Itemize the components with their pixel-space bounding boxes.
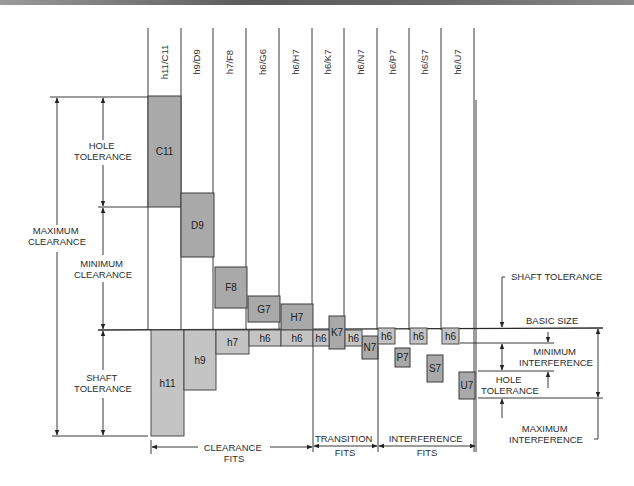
column-header: h6/S7 [419, 50, 430, 75]
maximum-interference-label: MAXIMUM INTERFERENCE [509, 423, 583, 445]
hole-tolerance-label-right: HOLE TOLERANCE [481, 374, 539, 396]
clearance-fits-label: CLEARANCE FITS [204, 442, 265, 464]
column-header: h6/H7 [290, 49, 301, 74]
column-headers: h11/C11h9/D9h7/F8h6/G6h6/H7h6/K7h6/N7h6/… [159, 45, 463, 80]
hole-zone-label: F8 [225, 282, 237, 293]
hole-zone-label: P7 [396, 352, 409, 363]
shaft-zone: h6 [313, 330, 329, 346]
basic-size-label: BASIC SIZE [526, 315, 578, 326]
shaft-zone-label: h6 [291, 333, 303, 344]
hole-zone-label: D9 [191, 220, 204, 231]
hole-zone: S7 [427, 355, 443, 382]
maximum-clearance-label: MAXIMUM CLEARANCE [28, 225, 86, 247]
hole-zone: P7 [395, 348, 410, 367]
shaft-zone: h6 [249, 330, 281, 346]
fits-diagram: h11/C11h9/D9h7/F8h6/G6h6/H7h6/K7h6/N7h6/… [0, 0, 634, 486]
shaft-zone-label: h6 [259, 333, 271, 344]
hole-zone: H7 [281, 304, 313, 330]
hole-zone: N7 [362, 336, 378, 359]
column-header: h6/P7 [387, 50, 398, 75]
fit-group-annotations: CLEARANCE FITS TRANSITION FITS INTERFERE… [151, 100, 476, 464]
hole-zone: G7 [248, 296, 280, 322]
shaft-zone-label: h6 [381, 331, 393, 342]
hole-zone-label: G7 [257, 304, 271, 315]
column-header: h6/U7 [452, 49, 463, 74]
left-dimension-annotations: HOLE TOLERANCE MAXIMUM CLEARANCE MINIMUM… [28, 97, 148, 436]
column-header: h9/D9 [191, 49, 202, 74]
hole-zone-label: C11 [156, 146, 174, 157]
hole-zone-label: S7 [429, 363, 442, 374]
hole-zone-label: U7 [461, 380, 474, 391]
hole-zone: K7 [329, 316, 345, 349]
column-header: h6/G6 [257, 49, 268, 75]
shaft-zone: h6 [378, 328, 395, 344]
hole-zone: U7 [459, 372, 475, 399]
shaft-tolerance-label-left: SHAFT TOLERANCE [74, 372, 132, 394]
minimum-clearance-label: MINIMUM CLEARANCE [74, 258, 132, 280]
shaft-zone-label: h6 [445, 331, 457, 342]
shaft-zone-label: h6 [315, 333, 327, 344]
shaft-zone-label: h11 [160, 378, 176, 389]
shaft-zone-label: h7 [227, 337, 239, 348]
shaft-zone: h7 [216, 330, 249, 354]
shaft-zone: h6 [345, 330, 362, 346]
column-header: h6/K7 [322, 50, 333, 75]
hole-zone-label: K7 [331, 327, 344, 338]
shaft-zone: h6 [442, 328, 459, 344]
hole-zone: C11 [148, 96, 181, 207]
shaft-tolerance-label-right: SHAFT TOLERANCE [511, 271, 602, 282]
shaft-zone: h6 [410, 328, 427, 344]
hole-zone: F8 [215, 267, 247, 308]
hole-zone-label: H7 [291, 312, 304, 323]
shaft-zone-label: h6 [348, 333, 360, 344]
shaft-zone-label: h6 [413, 331, 425, 342]
shaft-tolerance-zones: h11h9h7h6h6h6h6h6h6h6 [151, 328, 459, 436]
column-header: h11/C11 [159, 45, 170, 80]
shaft-zone: h11 [151, 330, 184, 436]
column-header: h6/N7 [355, 49, 366, 74]
shaft-zone: h6 [281, 330, 313, 346]
right-dimension-annotations: SHAFT TOLERANCE BASIC SIZE MINIMUM INTER… [460, 271, 603, 445]
hole-zone: D9 [181, 193, 214, 257]
minimum-interference-label: MINIMUM INTERFERENCE [519, 346, 593, 368]
hole-tolerance-label-left: HOLE TOLERANCE [74, 140, 132, 162]
shaft-zone-label: h9 [194, 355, 206, 366]
column-header: h7/F8 [224, 50, 235, 74]
shaft-zone: h9 [184, 330, 216, 390]
hole-zone-label: N7 [364, 342, 377, 353]
